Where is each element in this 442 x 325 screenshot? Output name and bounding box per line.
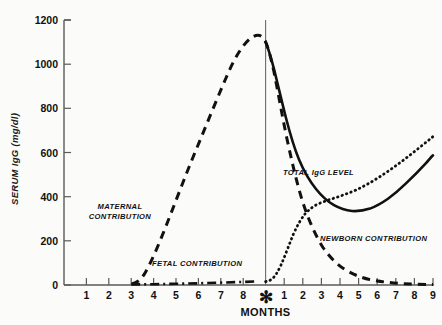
x-tick-prenatal-3: 3 (128, 289, 134, 301)
serum-igg-chart: 0 200 400 600 800 1000 1200 SERUM IgG (m… (0, 0, 442, 325)
x-tick-postnatal-8: 8 (411, 289, 417, 301)
x-tick-prenatal-2: 2 (106, 289, 112, 301)
annotation-maternal-contribution-line2: CONTRIBUTION (89, 212, 152, 221)
curve-newborn-contribution (266, 137, 433, 282)
x-tick-postnatal-1: 1 (281, 289, 287, 301)
curve-fetal-contribution (131, 281, 258, 284)
annotations-group: MATERNAL CONTRIBUTION FETAL CONTRIBUTION… (89, 168, 428, 268)
y-axis-title: SERUM IgG (mg/dl) (9, 113, 20, 205)
x-tick-labels-prenatal: 1 2 3 4 5 6 7 8 (83, 289, 246, 301)
y-tick-labels: 0 200 400 600 800 1000 1200 (35, 14, 59, 291)
y-tick-label-0: 0 (52, 279, 58, 291)
x-tick-prenatal-5: 5 (173, 289, 179, 301)
x-tick-labels-postnatal: 1 2 3 4 5 6 7 8 9 (281, 289, 436, 301)
annotation-total-igg-level: TOTAL IgG LEVEL (283, 168, 354, 177)
y-ticks (64, 20, 71, 285)
axes-group: 0 200 400 600 800 1000 1200 SERUM IgG (m… (9, 14, 436, 318)
x-tick-postnatal-6: 6 (374, 289, 380, 301)
x-tick-prenatal-6: 6 (195, 289, 201, 301)
y-tick-label-1000: 1000 (35, 58, 59, 70)
y-tick-label-800: 800 (40, 102, 58, 114)
curve-total-igg-level (266, 42, 433, 211)
y-tick-label-400: 400 (40, 191, 58, 203)
x-tick-postnatal-7: 7 (393, 289, 399, 301)
x-tick-postnatal-2: 2 (300, 289, 306, 301)
x-tick-prenatal-8: 8 (240, 289, 246, 301)
data-series-group (131, 35, 433, 284)
x-tick-postnatal-3: 3 (318, 289, 324, 301)
x-tick-postnatal-9: 9 (430, 289, 436, 301)
annotation-fetal-contribution: FETAL CONTRIBUTION (152, 259, 243, 268)
annotation-maternal-contribution-line1: MATERNAL (98, 202, 143, 211)
x-axis-title: MONTHS (241, 306, 291, 318)
x-tick-prenatal-1: 1 (83, 289, 89, 301)
chart-svg: 0 200 400 600 800 1000 1200 SERUM IgG (m… (0, 0, 442, 325)
curve-maternal-contribution (132, 35, 434, 284)
y-tick-label-600: 600 (40, 147, 58, 159)
x-tick-prenatal-4: 4 (151, 289, 157, 301)
birth-asterisk-marker: ✻ (259, 288, 273, 307)
annotation-newborn-contribution: NEWBORN CONTRIBUTION (320, 234, 428, 243)
y-tick-label-200: 200 (40, 235, 58, 247)
x-tick-postnatal-4: 4 (337, 289, 343, 301)
x-tick-postnatal-5: 5 (356, 289, 362, 301)
y-tick-label-1200: 1200 (35, 14, 59, 26)
x-tick-prenatal-7: 7 (218, 289, 224, 301)
